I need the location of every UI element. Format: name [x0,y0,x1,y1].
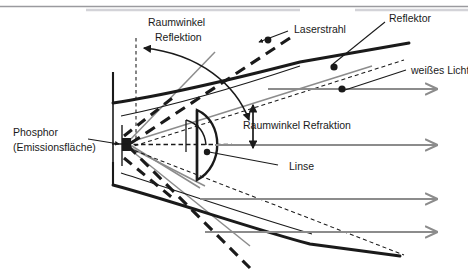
label-raumwinkel-reflektion-line1: Raumwinkel [148,16,205,28]
white-light-marker-dot [338,85,345,92]
leader-linse [209,152,278,165]
label-linse: Linse [289,160,314,172]
label-raumwinkel-refraktion: Raumwinkel Refraktion [243,119,351,131]
optical-diagram-svg: Raumwinkel Reflektion Laserstrahl Reflek… [0,0,468,272]
label-laserstrahl: Laserstrahl [294,23,346,35]
label-phosphor-line1: Phosphor [13,126,58,138]
leader-weisses-licht [345,70,406,90]
label-raumwinkel-reflektion-line2: Reflektion [155,31,202,43]
label-reflektor: Reflektor [389,12,432,24]
label-weisses-licht: weißes Licht [410,64,468,76]
reflektor-marker-dot [330,63,337,70]
gray-ray-bundle [127,52,372,246]
diagram-figure: Raumwinkel Reflektion Laserstrahl Reflek… [0,0,468,272]
top-rule [0,7,468,11]
label-phosphor-line2: (Emissionsfläche) [13,141,96,153]
